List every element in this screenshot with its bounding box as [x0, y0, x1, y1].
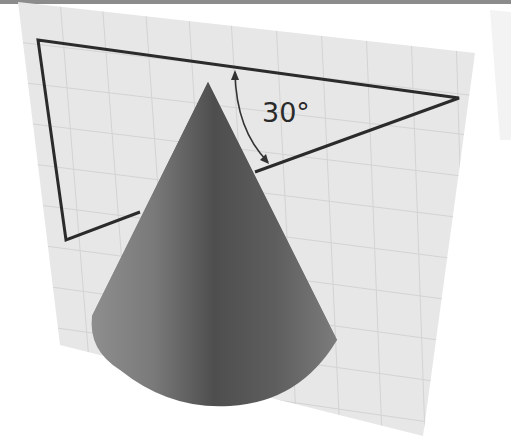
angle-label: 30°: [262, 97, 310, 128]
cone-plane-diagram: 30°: [0, 0, 511, 436]
back-sheet: [490, 10, 511, 140]
